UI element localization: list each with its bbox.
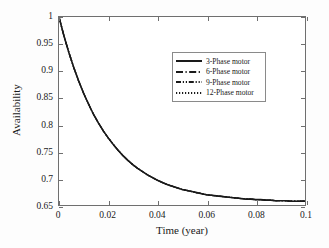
x-axis-label: Time (year) (58, 224, 306, 236)
x-tick-label: 0.1 (286, 210, 326, 220)
y-tick-mark (301, 17, 305, 18)
legend-item-2[interactable]: 6-Phase motor (176, 67, 262, 77)
y-tick-mark (59, 153, 63, 154)
y-tick-label: 0.8 (0, 120, 53, 130)
x-tick-label: 0.06 (187, 210, 227, 220)
x-tick-mark (257, 201, 258, 205)
legend-line-swatch (176, 78, 202, 86)
chart-figure: 0.650.70.750.80.850.90.95100.020.040.060… (0, 0, 329, 248)
y-tick-mark (59, 71, 63, 72)
x-tick-label: 0.02 (88, 210, 128, 220)
x-tick-mark (109, 17, 110, 21)
y-tick-mark (59, 207, 63, 208)
legend-label: 12-Phase motor (206, 88, 254, 97)
y-tick-label: 0.7 (0, 174, 53, 184)
plot-area (58, 16, 306, 206)
x-tick-label: 0.04 (137, 210, 177, 220)
y-tick-mark (301, 98, 305, 99)
series-line-2 (59, 17, 305, 201)
legend-line-swatch (176, 68, 202, 76)
y-tick-label: 1 (0, 11, 53, 21)
x-tick-mark (59, 17, 60, 21)
y-tick-mark (59, 44, 63, 45)
series-line-1 (59, 17, 305, 201)
y-tick-label: 0.95 (0, 38, 53, 48)
x-tick-label: 0.08 (236, 210, 276, 220)
curve-svg (59, 17, 305, 205)
x-tick-label: 0 (38, 210, 78, 220)
legend-item-1[interactable]: 3-Phase motor (176, 56, 262, 66)
y-tick-mark (59, 126, 63, 127)
x-tick-mark (257, 17, 258, 21)
legend-item-4[interactable]: 12-Phase motor (176, 88, 262, 98)
y-tick-label: 0.75 (0, 147, 53, 157)
series-line-3 (59, 17, 305, 201)
legend-line-swatch (176, 57, 202, 65)
chart-legend[interactable]: 3-Phase motor6-Phase motor9-Phase motor1… (172, 52, 266, 102)
y-tick-mark (301, 153, 305, 154)
y-tick-mark (301, 71, 305, 72)
x-tick-mark (307, 201, 308, 205)
y-tick-mark (301, 180, 305, 181)
y-tick-mark (301, 44, 305, 45)
x-tick-mark (208, 201, 209, 205)
x-tick-mark (208, 17, 209, 21)
legend-label: 6-Phase motor (206, 67, 250, 76)
y-tick-mark (59, 180, 63, 181)
x-tick-mark (158, 17, 159, 21)
y-tick-label: 0.85 (0, 92, 53, 102)
series-line-4 (59, 17, 305, 201)
x-tick-mark (158, 201, 159, 205)
legend-item-3[interactable]: 9-Phase motor (176, 77, 262, 87)
y-tick-mark (301, 126, 305, 127)
legend-label: 3-Phase motor (206, 57, 250, 66)
x-tick-mark (109, 201, 110, 205)
x-tick-mark (307, 17, 308, 21)
x-tick-mark (59, 201, 60, 205)
y-axis-label: Availability (10, 50, 22, 170)
legend-label: 9-Phase motor (206, 78, 250, 87)
y-tick-label: 0.9 (0, 65, 53, 75)
y-tick-mark (59, 98, 63, 99)
legend-line-swatch (176, 89, 202, 97)
y-tick-mark (301, 207, 305, 208)
